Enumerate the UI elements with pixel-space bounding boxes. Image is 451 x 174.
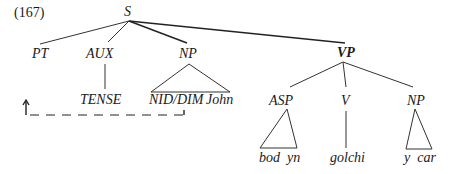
triangle-NP-object	[406, 109, 432, 149]
leaf-y-car: y car	[402, 150, 436, 165]
node-PT: PT	[31, 46, 50, 61]
leaf-bod-yn: bod yn	[259, 150, 300, 165]
edge-VP-V	[343, 62, 346, 87]
example-number: (167)	[14, 5, 45, 21]
node-AUX: AUX	[85, 46, 114, 61]
edge-VP-NP	[343, 62, 413, 87]
edge-S-PT	[40, 21, 129, 44]
node-VP: VP	[337, 45, 355, 60]
triangle-NP-subject	[151, 64, 230, 92]
node-TENSE: TENSE	[80, 92, 122, 107]
node-S: S	[124, 4, 131, 19]
node-ASP: ASP	[268, 93, 294, 108]
edge-S-VP	[129, 21, 345, 43]
node-NP-object: NP	[406, 93, 425, 108]
triangle-ASP	[260, 109, 297, 148]
edge-VP-ASP	[290, 62, 343, 87]
node-John: John	[206, 92, 233, 107]
node-V: V	[341, 93, 351, 108]
leaf-golchi: golchi	[330, 150, 365, 165]
node-NID-DIM: NID/DIM	[148, 92, 205, 107]
node-NP-subject: NP	[178, 46, 197, 61]
syntax-tree-diagram: (167) S PT AUX NP VP TENSE NID/DIM John …	[0, 0, 451, 174]
